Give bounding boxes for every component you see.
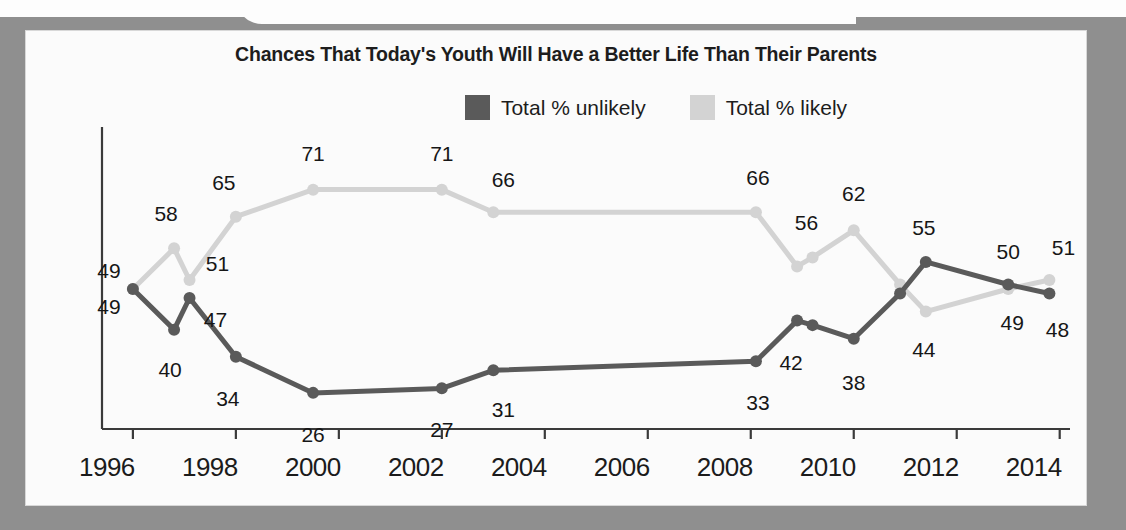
plot-area: 4940473426273133423855504849585165717166… <box>76 127 1076 467</box>
x-tick-label: 2008 <box>697 452 753 483</box>
data-label: 49 <box>97 259 120 283</box>
chart-panel: Chances That Today's Youth Will Have a B… <box>26 31 1086 505</box>
page-top-strip <box>0 0 1126 17</box>
x-tick-label: 2010 <box>800 452 856 483</box>
x-tick-label: 2002 <box>388 452 444 483</box>
data-label: 34 <box>216 387 239 411</box>
legend-label-likely: Total % likely <box>726 96 847 120</box>
x-tick-label: 2012 <box>903 452 959 483</box>
data-label: 44 <box>912 338 935 362</box>
data-label: 31 <box>492 398 515 422</box>
x-tick-label: 2006 <box>594 452 650 483</box>
data-label: 56 <box>795 211 818 235</box>
data-label: 50 <box>997 240 1020 264</box>
data-label: 40 <box>158 358 181 382</box>
data-label: 71 <box>430 142 453 166</box>
data-label: 26 <box>301 423 324 447</box>
chart-legend: Total % unlikely Total % likely <box>26 95 1086 120</box>
data-label: 58 <box>154 202 177 226</box>
x-tick-label: 2004 <box>491 452 547 483</box>
x-tick-label: 2014 <box>1006 452 1062 483</box>
legend-item-likely: Total % likely <box>690 95 847 120</box>
source-note-clip: SOURCE: September/October 1996 <box>1102 200 1126 530</box>
chart-title: Chances That Today's Youth Will Have a B… <box>26 43 1086 66</box>
legend-swatch-unlikely <box>465 95 490 120</box>
legend-swatch-likely <box>690 95 715 120</box>
x-tick-label: 1998 <box>182 452 238 483</box>
data-label: 38 <box>842 371 865 395</box>
data-label: 48 <box>1046 318 1069 342</box>
data-label: 49 <box>97 295 120 319</box>
data-label: 49 <box>1001 311 1024 335</box>
x-axis-labels: 1996199820002002200420062008201020122014 <box>26 452 1086 498</box>
data-label: 33 <box>746 391 769 415</box>
legend-label-unlikely: Total % unlikely <box>501 96 646 120</box>
data-label: 71 <box>301 142 324 166</box>
data-label: 51 <box>206 252 229 276</box>
data-label: 65 <box>212 171 235 195</box>
data-label: 42 <box>779 351 802 375</box>
data-label: 27 <box>430 418 453 442</box>
page-top-notch <box>236 0 856 24</box>
data-label: 66 <box>492 168 515 192</box>
x-tick-label: 1996 <box>79 452 135 483</box>
data-label: 47 <box>204 308 227 332</box>
data-label: 55 <box>912 216 935 240</box>
legend-item-unlikely: Total % unlikely <box>465 95 646 120</box>
data-label: 51 <box>1052 236 1075 260</box>
data-label: 66 <box>746 166 769 190</box>
chart-page: Chances That Today's Youth Will Have a B… <box>0 0 1126 530</box>
x-tick-label: 2000 <box>285 452 341 483</box>
data-label: 62 <box>842 182 865 206</box>
